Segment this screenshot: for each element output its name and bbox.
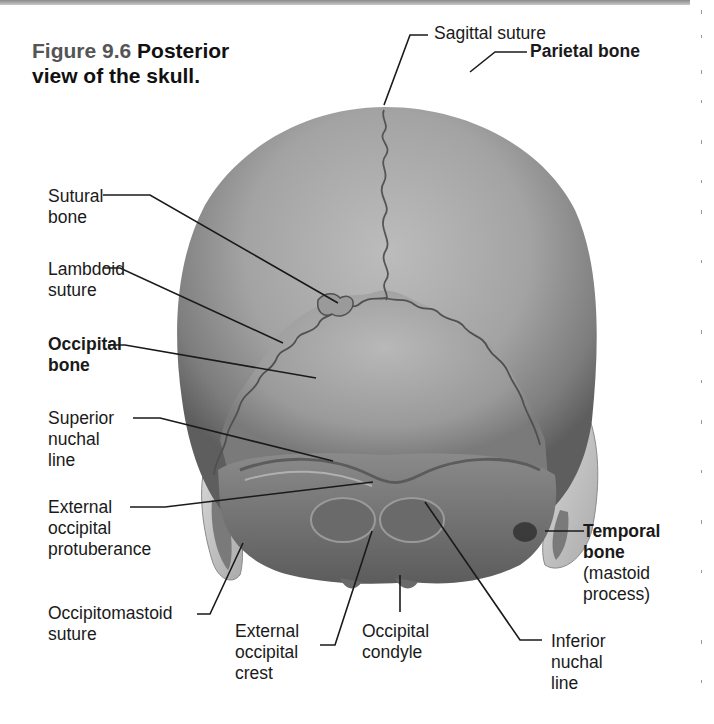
label-line: occipital — [48, 518, 151, 539]
label-temporal-bone: Temporal bone (mastoid process) — [583, 521, 660, 605]
label-line: Lambdoid — [48, 259, 125, 280]
label-line: line — [48, 450, 114, 471]
label-line: (mastoid — [583, 563, 660, 584]
label-line: suture — [48, 280, 125, 301]
label-line: Occipital — [48, 334, 122, 355]
label-superior-nuchal-line: Superior nuchal line — [48, 408, 114, 471]
label-line: line — [551, 673, 605, 694]
label-line: bone — [583, 542, 660, 563]
label-line: Sutural — [48, 186, 103, 207]
condyle-left — [311, 498, 375, 542]
label-occipital-bone: Occipital bone — [48, 334, 122, 376]
label-line: bone — [48, 355, 122, 376]
condyle-right — [380, 498, 444, 542]
label-line: nuchal — [551, 652, 605, 673]
label-external-occipital-protuberance: External occipital protuberance — [48, 497, 151, 560]
label-line: bone — [48, 207, 103, 228]
label-line: crest — [235, 663, 299, 684]
label-parietal-bone: Parietal bone — [530, 41, 640, 62]
label-occipital-condyle: Occipital condyle — [362, 621, 429, 663]
label-line: Temporal — [583, 521, 660, 542]
label-line: condyle — [362, 642, 429, 663]
label-line: Inferior — [551, 631, 605, 652]
label-line: External — [235, 621, 299, 642]
label-line: process) — [583, 584, 660, 605]
label-line: nuchal — [48, 429, 114, 450]
page-edge-marks — [700, 0, 704, 724]
label-line: suture — [48, 624, 173, 645]
label-line: occipital — [235, 642, 299, 663]
label-line: protuberance — [48, 539, 151, 560]
label-occipitomastoid-suture: Occipitomastoid suture — [48, 603, 173, 645]
label-line: Occipital — [362, 621, 429, 642]
label-line: External — [48, 497, 151, 518]
label-sutural-bone: Sutural bone — [48, 186, 103, 228]
label-line: Superior — [48, 408, 114, 429]
label-inferior-nuchal-line: Inferior nuchal line — [551, 631, 605, 694]
label-lambdoid-suture: Lambdoid suture — [48, 259, 125, 301]
label-external-occipital-crest: External occipital crest — [235, 621, 299, 684]
sutural-bone-shape — [318, 294, 353, 316]
label-line: Occipitomastoid — [48, 603, 173, 624]
